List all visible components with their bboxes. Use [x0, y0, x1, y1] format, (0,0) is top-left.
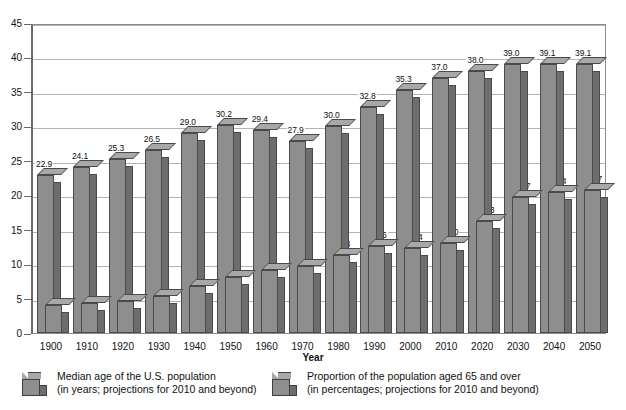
bar-side-face	[493, 228, 500, 333]
y-axis-tick: 15	[0, 226, 31, 236]
bar-front-face	[153, 296, 170, 333]
legend-label-proportion-65-over: Proportion of the population aged 65 and…	[307, 370, 539, 396]
x-axis-tick-label: 2040	[534, 341, 574, 352]
y-axis-tick: 10	[0, 260, 31, 270]
y-axis-tick-label: 20	[11, 191, 22, 201]
bar-top-face	[45, 298, 76, 305]
y-axis-tick: 5	[0, 295, 31, 305]
y-axis-tick-mark	[24, 334, 31, 335]
bar-side-face	[601, 197, 608, 333]
bar-top-face	[217, 118, 248, 125]
y-axis-tick: 45	[0, 19, 31, 29]
y-axis-tick: 0	[0, 329, 31, 339]
bar-front-face	[548, 192, 565, 333]
legend-label-line1: Proportion of the population aged 65 and…	[307, 370, 521, 382]
y-axis-tick-mark	[24, 24, 31, 25]
y-axis-tick-mark	[24, 161, 31, 162]
x-axis-tick-label: 1990	[354, 341, 394, 352]
bar-proportion-65-over	[440, 243, 457, 333]
bar-front-face	[81, 303, 98, 333]
bar-top-face	[325, 119, 356, 126]
bar-side-face	[565, 199, 572, 333]
chart-legend: Median age of the U.S. population (in ye…	[0, 368, 626, 410]
bar-top-face	[432, 71, 463, 78]
bar-front-face	[117, 301, 134, 333]
y-axis-tick: 40	[0, 53, 31, 63]
bar-side-face	[350, 262, 357, 333]
bar-top-face	[468, 64, 499, 71]
legend-label-line2: (in percentages; projections for 2010 an…	[307, 383, 539, 395]
bar-side-face	[134, 308, 141, 333]
bar-front-face	[368, 246, 385, 333]
bar-front-face	[45, 305, 62, 333]
y-axis-tick-mark	[24, 58, 31, 59]
bar-side-face	[385, 253, 392, 333]
gray-cube-swatch-icon	[272, 372, 298, 396]
y-axis-tick-label: 35	[11, 88, 22, 98]
y-axis-tick-label: 5	[16, 295, 22, 305]
bar-top-face	[584, 183, 615, 190]
y-axis-tick: 20	[0, 191, 31, 201]
bar-proportion-65-over	[368, 246, 385, 333]
bar-top-face	[81, 296, 112, 303]
bar-proportion-65-over	[476, 221, 493, 333]
y-axis-tick-label: 25	[11, 157, 22, 167]
bar-front-face	[261, 270, 278, 333]
bar-side-face	[421, 255, 428, 333]
y-axis-tick: 25	[0, 157, 31, 167]
x-axis-tick-label: 1930	[139, 341, 179, 352]
x-axis-tick-label: 1920	[103, 341, 143, 352]
bar-side-face	[206, 293, 213, 333]
bar-top-face	[540, 57, 571, 64]
bar-side-face	[529, 204, 536, 333]
bar-top-face	[404, 241, 435, 248]
y-axis-tick-label: 45	[11, 19, 22, 29]
y-axis-tick-mark	[24, 265, 31, 266]
bar-front-face	[297, 266, 314, 334]
x-axis-tick-label: 2050	[570, 341, 610, 352]
bar-side-face	[242, 284, 249, 333]
x-axis-tick-label: 1900	[31, 341, 71, 352]
bar-top-face	[73, 160, 104, 167]
bar-top-face	[548, 185, 579, 192]
bar-side-face	[314, 273, 321, 334]
y-axis-tick-label: 40	[11, 53, 22, 63]
bar-proportion-65-over	[333, 255, 350, 333]
legend-label-line1: Median age of the U.S. population	[57, 370, 216, 382]
y-axis-tick-mark	[24, 196, 31, 197]
bar-top-face	[181, 126, 212, 133]
bar-top-face	[109, 152, 140, 159]
bar-top-face	[368, 239, 399, 246]
bar-proportion-65-over	[153, 296, 170, 333]
bar-top-face	[440, 236, 471, 243]
gray-cube-swatch-icon	[22, 372, 48, 396]
bar-proportion-65-over	[584, 190, 601, 333]
bar-proportion-65-over	[512, 197, 529, 333]
x-axis-tick-label: 1980	[318, 341, 358, 352]
bar-side-face	[278, 277, 285, 333]
bar-chart: 22.94.124.14.325.34.626.55.429.06.830.28…	[0, 0, 626, 410]
bar-top-face	[145, 143, 176, 150]
bar-side-face	[62, 312, 69, 333]
bar-top-face	[189, 279, 220, 286]
bar-top-face	[253, 123, 284, 130]
y-axis-tick-label: 10	[11, 260, 22, 270]
bar-top-face	[476, 214, 507, 221]
bar-side-face	[98, 310, 105, 333]
bar-top-face	[289, 134, 320, 141]
bar-proportion-65-over	[189, 286, 206, 333]
bar-proportion-65-over	[45, 305, 62, 333]
x-axis-tick-label: 2020	[462, 341, 502, 352]
y-axis-tick-label: 15	[11, 226, 22, 236]
bar-proportion-65-over	[261, 270, 278, 333]
bar-front-face	[440, 243, 457, 333]
x-axis-tick-label: 2010	[426, 341, 466, 352]
bar-top-face	[396, 83, 427, 90]
gridline	[33, 25, 605, 26]
x-axis-tick-label: 1950	[211, 341, 251, 352]
x-axis-tick-label: 2030	[498, 341, 538, 352]
y-axis-tick: 30	[0, 122, 31, 132]
plot-area: 22.94.124.14.325.34.626.55.429.06.830.28…	[31, 24, 606, 334]
x-axis-tick-label: 2000	[390, 341, 430, 352]
bar-top-face	[360, 100, 391, 107]
